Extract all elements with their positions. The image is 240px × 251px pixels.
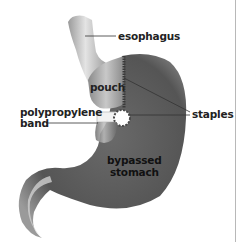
label-staples: staples xyxy=(192,109,233,120)
label-bypassed-line1: bypassed xyxy=(107,155,162,166)
label-pouch: pouch xyxy=(90,82,125,93)
label-bypassed-line2: stomach xyxy=(110,167,159,178)
stomach-diagram: esophagus pouch staples polypropylene ba… xyxy=(0,0,240,251)
label-esophagus: esophagus xyxy=(118,31,180,42)
label-band-line2: band xyxy=(20,118,49,129)
frame-divider xyxy=(235,0,236,242)
